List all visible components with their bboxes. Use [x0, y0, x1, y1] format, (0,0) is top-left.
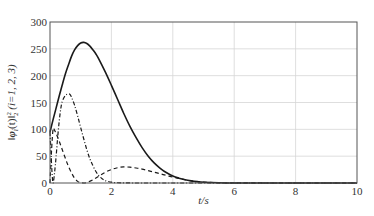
grid-lines	[50, 22, 357, 183]
x-axis-label: t/s	[198, 194, 208, 206]
x-tick-label: 4	[170, 185, 176, 197]
curve-i3	[50, 128, 357, 183]
y-tick-label: 100	[31, 123, 48, 135]
x-tick-label: 8	[293, 185, 299, 197]
y-tick-label: 200	[31, 70, 48, 82]
data-curves	[50, 42, 357, 183]
line-chart: 0246810 050100150200250300 t/s ‖φi(t)‖22…	[0, 0, 374, 216]
y-tick-label: 250	[31, 43, 48, 55]
y-tick-label: 50	[36, 150, 48, 162]
y-tick-label: 0	[42, 177, 48, 189]
y-tick-label: 150	[31, 97, 48, 109]
curve-i2	[50, 94, 357, 183]
curve-i1	[50, 42, 357, 183]
y-axis-label: ‖φi(t)‖22 (i=1, 2, 3)	[5, 64, 20, 141]
x-tick-label: 0	[47, 185, 53, 197]
y-axis-ticks: 050100150200250300	[31, 16, 48, 189]
x-tick-label: 6	[231, 185, 237, 197]
x-tick-label: 10	[352, 185, 364, 197]
x-tick-label: 2	[109, 185, 115, 197]
y-tick-label: 300	[31, 16, 48, 28]
